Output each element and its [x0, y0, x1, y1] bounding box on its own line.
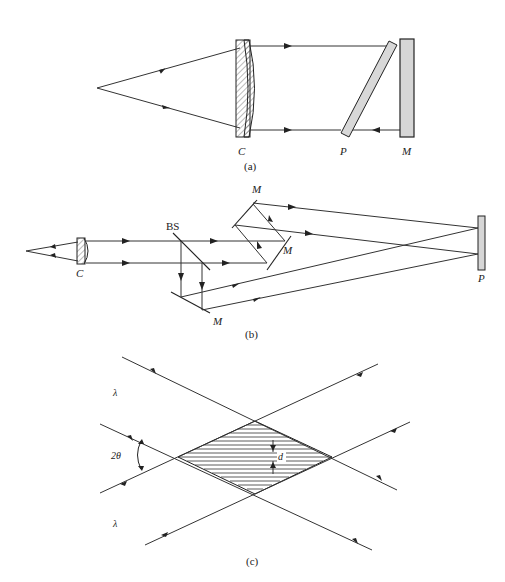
label-p-b: P: [477, 272, 485, 284]
label-c: C: [238, 145, 246, 157]
collimator-lens: [236, 40, 255, 137]
label-angle: 2θ: [111, 450, 121, 461]
source-rays: [97, 48, 240, 128]
caption-a: (a): [244, 160, 257, 173]
collimated-rays: [250, 43, 400, 133]
panel-b: C BS M M M: [26, 183, 485, 341]
plate-p: [478, 216, 485, 270]
caption-b: (b): [245, 328, 258, 341]
label-m-bottom: M: [212, 315, 223, 327]
panel-a: C P M (a): [97, 39, 414, 173]
caption-c: (c): [246, 555, 259, 568]
plane-mirror: [400, 39, 414, 137]
panel-c: 2θ d λ λ (c): [100, 357, 410, 568]
interference-region: [178, 421, 332, 494]
optics-figure: C P M (a) C BS M: [0, 0, 505, 582]
label-bs: BS: [166, 220, 179, 232]
label-p: P: [339, 145, 347, 157]
tilted-plate: [341, 41, 397, 137]
beam-splitter: [173, 233, 210, 270]
label-lambda-bottom: λ: [112, 518, 118, 529]
label-m-top: M: [251, 183, 262, 195]
label-m-mid: M: [282, 244, 293, 256]
collimator-lens-b: [77, 238, 88, 264]
label-m: M: [401, 145, 412, 157]
label-c-b: C: [76, 267, 84, 279]
label-lambda-top: λ: [112, 387, 118, 398]
